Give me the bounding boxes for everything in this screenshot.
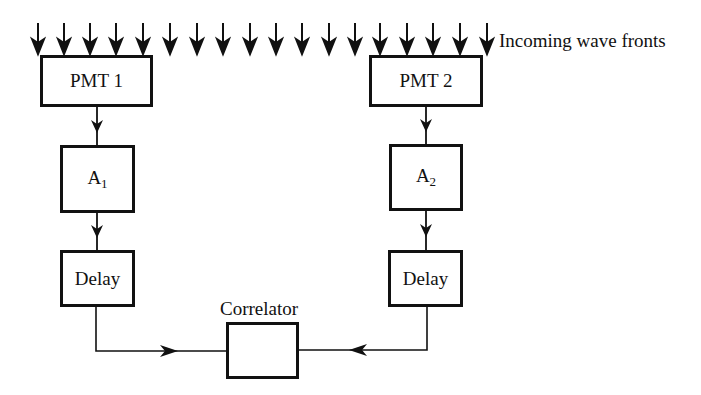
amplifier2-box: A2 <box>389 144 463 211</box>
pmt2-box: PMT 2 <box>369 55 483 107</box>
amplifier2-label: A2 <box>416 165 436 190</box>
edge-pmt2-a2 <box>420 106 432 144</box>
amplifier1-label: A1 <box>87 167 107 192</box>
edge-a1-delay1 <box>91 212 103 250</box>
pmt2-label: PMT 2 <box>400 70 453 92</box>
wave-front-arrows <box>32 23 493 54</box>
delay1-label: Delay <box>75 268 120 290</box>
edge-pmt1-a1 <box>91 106 103 145</box>
amplifier1-box: A1 <box>60 145 135 213</box>
correlator-box <box>226 322 299 379</box>
correlator-label: Correlator <box>220 298 298 320</box>
delay2-label: Delay <box>403 268 448 290</box>
wave-fronts-label: Incoming wave fronts <box>499 30 666 52</box>
edge-delay1-correlator <box>96 306 227 357</box>
pmt1-box: PMT 1 <box>40 55 153 107</box>
edge-a2-delay2 <box>420 210 432 250</box>
pmt1-label: PMT 1 <box>70 70 123 92</box>
delay1-box: Delay <box>60 250 135 307</box>
delay2-box: Delay <box>388 250 463 307</box>
edge-delay2-correlator <box>298 306 427 356</box>
